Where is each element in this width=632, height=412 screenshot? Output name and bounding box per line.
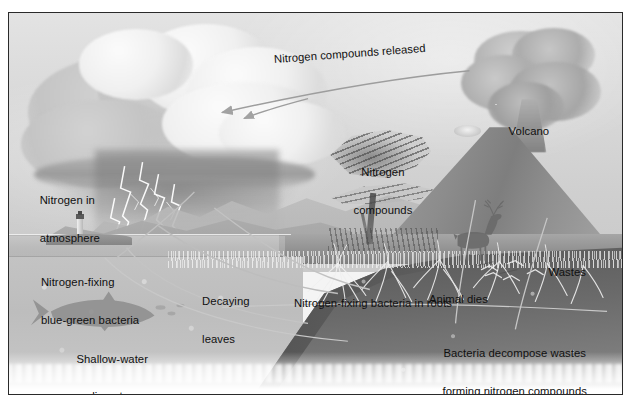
label-decaying-leaves: Decaying leaves: [202, 270, 250, 371]
label-decaying-leaves-line1: Decaying: [202, 295, 250, 308]
label-shallow-water-line2: sediments: [76, 390, 148, 394]
label-nitrogen-in-atmosphere-line1: Nitrogen in: [40, 194, 100, 207]
label-shallow-water-line1: Shallow-water: [76, 353, 148, 366]
figure-page: Nitrogen compounds released Volcano Nitr…: [0, 0, 632, 412]
label-nitrogen-compounds: Nitrogen compounds: [337, 141, 429, 242]
label-bacteria-decompose-wastes: Bacteria decompose wastes forming nitrog…: [414, 322, 616, 394]
label-animal-dies: Animal dies: [429, 293, 488, 306]
label-nfbgb-line2: blue-green bacteria: [41, 314, 139, 327]
label-bacteria-decompose-line2: forming nitrogen compounds: [414, 385, 616, 394]
label-nfbgb-line1: Nitrogen-fixing: [41, 276, 139, 289]
label-volcano: Volcano: [509, 125, 550, 138]
label-nitrogen-compounds-line2: compounds: [337, 204, 429, 217]
illustration-frame: Nitrogen compounds released Volcano Nitr…: [8, 12, 623, 395]
label-shallow-water-sediments: Shallow-water sediments: [76, 327, 148, 394]
label-nitrogen-compounds-line1: Nitrogen: [337, 166, 429, 179]
label-wastes: Wastes: [548, 266, 586, 279]
label-bacteria-decompose-line1: Bacteria decompose wastes: [414, 347, 616, 360]
nitrogen-cycle-scene: Nitrogen compounds released Volcano Nitr…: [9, 13, 622, 394]
label-decaying-leaves-line2: leaves: [202, 333, 250, 346]
label-nitrogen-in-atmosphere-line2: atmosphere: [40, 232, 100, 245]
